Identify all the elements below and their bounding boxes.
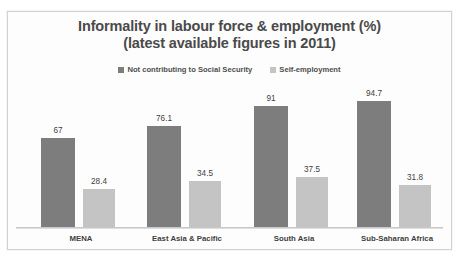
legend-item-social-security[interactable]: Not contributing to Social Security — [118, 65, 252, 74]
bar-south-asia-self-employment[interactable] — [296, 177, 328, 227]
bar-mena-self-employment[interactable] — [83, 189, 115, 227]
chart-legend: Not contributing to Social Security Self… — [8, 65, 451, 74]
bar-group-south-asia: 91 37.5 — [254, 80, 334, 227]
bar-sub-saharan-africa-social-security[interactable] — [357, 101, 391, 227]
legend-swatch-self-employment — [270, 67, 276, 73]
bar-group-sub-saharan-africa: 94.7 31.8 — [357, 80, 437, 227]
category-label-sub-saharan-africa: Sub-Saharan Africa — [332, 234, 459, 243]
bar-group-east-asia-pacific: 76.1 34.5 — [147, 80, 227, 227]
bar-value-south-asia-social-security: 91 — [241, 94, 301, 103]
legend-label-social-security: Not contributing to Social Security — [127, 65, 252, 74]
legend-label-self-employment: Self-employment — [279, 65, 340, 74]
bar-value-mena-social-security: 67 — [28, 126, 88, 135]
legend-swatch-social-security — [118, 67, 124, 73]
bar-value-sub-saharan-africa-social-security: 94.7 — [344, 89, 404, 98]
bar-value-sub-saharan-africa-self-employment: 31.8 — [385, 173, 445, 182]
chart-frame: Informality in labour force & employment… — [7, 11, 452, 250]
chart-title: Informality in labour force & employment… — [8, 18, 451, 52]
bar-east-asia-pacific-self-employment[interactable] — [189, 181, 221, 227]
axis-separator — [16, 228, 443, 229]
bar-value-east-asia-pacific-self-employment: 34.5 — [175, 169, 235, 178]
chart-title-line-1: Informality in labour force & employment… — [78, 18, 381, 34]
bar-value-south-asia-self-employment: 37.5 — [282, 165, 342, 174]
bar-value-east-asia-pacific-social-security: 76.1 — [134, 114, 194, 123]
category-axis: MENA East Asia & Pacific South Asia Sub-… — [8, 234, 451, 250]
legend-item-self-employment[interactable]: Self-employment — [270, 65, 340, 74]
bar-value-mena-self-employment: 28.4 — [69, 177, 129, 186]
bar-sub-saharan-africa-self-employment[interactable] — [399, 185, 431, 227]
bar-group-mena: 67 28.4 — [41, 80, 121, 227]
chart-title-line-2: (latest available figures in 2011) — [8, 35, 451, 52]
plot-area: 67 28.4 76.1 34.5 91 37.5 94.7 31.8 — [8, 80, 451, 228]
